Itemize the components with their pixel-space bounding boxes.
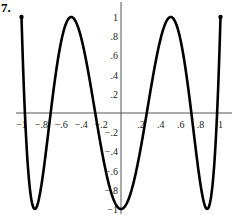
x-tick-label: .4 — [157, 119, 165, 130]
endpoint-dot — [19, 15, 23, 19]
y-tick-label: .8 — [111, 31, 119, 42]
y-tick-label: .6 — [111, 50, 119, 61]
x-tick-label: 1 — [218, 119, 223, 130]
y-tick-label: 1 — [113, 12, 118, 23]
x-tick-label: −.4 — [75, 119, 88, 130]
y-tick-label: .2 — [111, 89, 119, 100]
x-tick-label: −.8 — [35, 119, 48, 130]
x-tick-label: .6 — [177, 119, 185, 130]
chart: −1−.8−.6−.4−.2.2.4.6.811.8.6.4.2−.2−.4−.… — [0, 0, 233, 215]
x-tick-label: −.6 — [55, 119, 68, 130]
y-tick-label: −.4 — [105, 146, 118, 157]
y-tick-label: −.2 — [105, 127, 118, 138]
x-tick-label: .8 — [197, 119, 205, 130]
endpoint-dot — [218, 15, 222, 19]
y-tick-label: .4 — [111, 70, 119, 81]
